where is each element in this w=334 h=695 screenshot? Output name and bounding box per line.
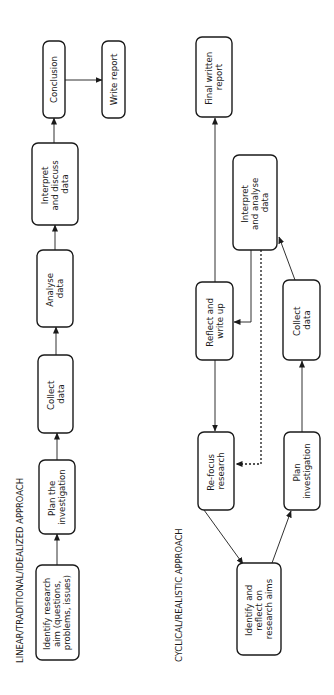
linear-step-analyse: Analyse data [37, 250, 73, 327]
research-approaches-diagram: LINEAR/TRADITIONAL/IDEALIZED APPROACH Id… [0, 0, 334, 695]
cyclical-title: CYCLICAL/REALISTIC APPROACH [174, 528, 184, 662]
dotted-arrow-interpret-to-refocus [236, 250, 261, 464]
linear-step-write-report: Write report [102, 41, 125, 118]
arrow-collect-to-interpret [279, 237, 295, 280]
svg-text:Identify research aim: Identify research aim (questions, proble… [42, 575, 72, 650]
linear-approach: LINEAR/TRADITIONAL/IDEALIZED APPROACH Id… [15, 41, 125, 663]
svg-text:Identify and reflect o: Identify and reflect on research aims [244, 578, 274, 639]
linear-title: LINEAR/TRADITIONAL/IDEALIZED APPROACH [15, 478, 25, 663]
cyclical-step-final-report: Final written report [196, 37, 232, 117]
arrow-identify-to-plan [272, 511, 291, 563]
arrow-interpret-to-reflect [234, 250, 251, 322]
cyclical-step-plan: Plan investigation [284, 432, 320, 510]
linear-step-conclusion: Conclusion [43, 41, 65, 118]
cyclical-step-collect: Collect data [283, 280, 320, 360]
linear-step-identify: Identify research aim (questions, proble… [36, 565, 79, 660]
cyclical-step-reflect: Reflect and write up [196, 282, 233, 360]
cyclical-step-refocus: Re-focus research [198, 432, 234, 510]
cyclical-approach: CYCLICAL/REALISTIC APPROACH Identify and… [174, 37, 320, 662]
linear-step-interpret: Interpret and discuss data [32, 143, 78, 225]
linear-step-collect: Collect data [38, 355, 73, 433]
cyclical-step-interpret: Interpret and analyse data [233, 155, 277, 250]
svg-text:Conclusion: Conclusion [49, 56, 59, 103]
linear-step-plan: Plan the investigation [39, 460, 75, 534]
arrow-refocus-to-identify [204, 510, 243, 564]
svg-text:Write report: Write report [109, 53, 119, 105]
svg-text:Re-focus research: Re-focus research [206, 451, 226, 491]
cyclical-step-identify: Identify and reflect on research aims [237, 563, 281, 655]
